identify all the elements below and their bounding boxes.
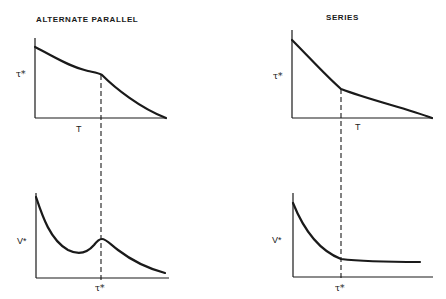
alt-parallel-top-xlabel: T — [76, 125, 82, 134]
series-bottom-xlabel: τ* — [335, 284, 344, 293]
series-top-plot — [292, 30, 433, 118]
series-title: SERIES — [326, 14, 359, 22]
alt-parallel-title: ALTERNATE PARALLEL — [36, 16, 138, 24]
series-top-curve — [292, 40, 432, 118]
series-bottom-plot — [293, 193, 433, 277]
alt-parallel-bottom-ylabel: V* — [17, 237, 27, 246]
series-bottom-curve — [293, 203, 420, 262]
alt-parallel-bottom-plot — [36, 193, 169, 278]
series-top-ylabel: τ* — [273, 72, 282, 81]
alt-parallel-bottom-xlabel: τ* — [95, 284, 104, 293]
alt-parallel-top-ylabel: τ* — [16, 70, 25, 79]
series-top-xlabel: T — [355, 123, 361, 132]
diagram-canvas — [0, 0, 446, 299]
series-bottom-ylabel: V* — [272, 236, 282, 245]
